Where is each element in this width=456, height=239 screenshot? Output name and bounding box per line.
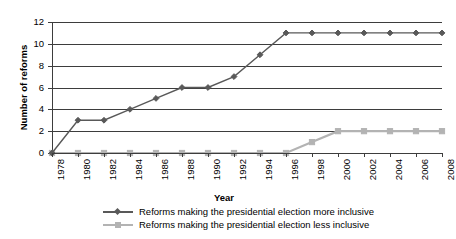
series-line bbox=[52, 33, 442, 153]
legend-label: Reforms making the presidential election… bbox=[139, 219, 369, 230]
x-axis-tick bbox=[52, 153, 53, 157]
data-point-diamond bbox=[361, 30, 367, 36]
chart-legend: Reforms making the presidential election… bbox=[0, 205, 448, 231]
data-point-square bbox=[439, 129, 444, 134]
legend-marker-square-icon bbox=[115, 222, 121, 228]
data-point-square bbox=[387, 129, 392, 134]
data-point-diamond bbox=[127, 106, 133, 112]
y-axis-label: 2 bbox=[39, 126, 44, 136]
legend-label: Reforms making the presidential election… bbox=[139, 206, 374, 217]
y-axis-label: 4 bbox=[39, 104, 44, 114]
x-axis-label: 1978 bbox=[56, 159, 66, 180]
x-axis-tick bbox=[130, 153, 131, 157]
data-point-square bbox=[309, 139, 314, 144]
x-axis-label: 2006 bbox=[420, 159, 430, 180]
x-axis-label: 1986 bbox=[160, 159, 170, 180]
x-axis-label: 2004 bbox=[394, 159, 404, 180]
legend-item[interactable]: Reforms making the presidential election… bbox=[0, 218, 448, 231]
x-axis-label: 1988 bbox=[186, 159, 196, 180]
y-axis-label: 12 bbox=[33, 17, 44, 27]
data-point-square bbox=[361, 129, 366, 134]
series-1 bbox=[49, 30, 445, 156]
x-axis-label: 2000 bbox=[342, 159, 352, 180]
x-axis-tick bbox=[338, 153, 339, 157]
x-axis-tick bbox=[364, 153, 365, 157]
x-axis-tick bbox=[182, 153, 183, 157]
x-axis-tick bbox=[78, 153, 79, 157]
data-point-diamond bbox=[153, 96, 159, 102]
data-point-diamond bbox=[387, 30, 393, 36]
x-axis-label: 1982 bbox=[108, 159, 118, 180]
x-axis-tick bbox=[260, 153, 261, 157]
x-axis-tick bbox=[208, 153, 209, 157]
y-axis-label: 8 bbox=[39, 61, 44, 71]
series-line bbox=[52, 131, 442, 153]
x-axis-tick bbox=[286, 153, 287, 157]
data-point-diamond bbox=[179, 85, 185, 91]
legend-swatch-1 bbox=[103, 206, 133, 217]
data-point-diamond bbox=[205, 85, 211, 91]
x-axis-label: 1998 bbox=[316, 159, 326, 180]
series-2 bbox=[49, 129, 444, 156]
x-axis-line bbox=[52, 153, 442, 154]
y-axis-label: 6 bbox=[39, 83, 44, 93]
x-axis-label: 1984 bbox=[134, 159, 144, 180]
x-axis-tick bbox=[156, 153, 157, 157]
y-axis-title: Number of reforms bbox=[18, 13, 29, 163]
x-axis-label: 2008 bbox=[446, 159, 456, 180]
data-point-square bbox=[413, 129, 418, 134]
y-axis-label: 0 bbox=[39, 148, 44, 158]
series-layer bbox=[52, 22, 442, 153]
x-axis-label: 2002 bbox=[368, 159, 378, 180]
data-point-diamond bbox=[439, 30, 445, 36]
x-axis-tick bbox=[442, 153, 443, 157]
x-axis-tick bbox=[104, 153, 105, 157]
data-point-diamond bbox=[413, 30, 419, 36]
plot-area bbox=[52, 22, 442, 153]
x-axis-tick bbox=[234, 153, 235, 157]
y-axis-label: 10 bbox=[33, 39, 44, 49]
x-axis-label: 1990 bbox=[212, 159, 222, 180]
x-axis-title: Year bbox=[0, 192, 448, 203]
x-axis-label: 1996 bbox=[290, 159, 300, 180]
data-point-diamond bbox=[309, 30, 315, 36]
data-point-diamond bbox=[335, 30, 341, 36]
x-axis-tick bbox=[390, 153, 391, 157]
legend-marker-diamond-icon bbox=[114, 208, 121, 215]
x-axis-label: 1980 bbox=[82, 159, 92, 180]
legend-item[interactable]: Reforms making the presidential election… bbox=[0, 205, 448, 218]
x-axis-tick bbox=[416, 153, 417, 157]
data-point-square bbox=[335, 129, 340, 134]
x-axis-tick bbox=[312, 153, 313, 157]
x-axis-label: 1992 bbox=[238, 159, 248, 180]
legend-swatch-2 bbox=[103, 219, 133, 230]
data-point-diamond bbox=[101, 117, 107, 123]
x-axis-label: 1994 bbox=[264, 159, 274, 180]
